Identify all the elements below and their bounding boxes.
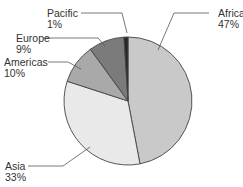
label-europe: Europe 9% — [16, 33, 50, 55]
leader-europe — [43, 38, 105, 46]
label-pct: 47% — [218, 19, 243, 30]
leader-asia — [28, 147, 90, 166]
label-pct: 33% — [5, 172, 26, 183]
label-pacific: Pacific 1% — [47, 8, 78, 30]
label-pct: 10% — [4, 68, 48, 79]
label-americas: Americas 10% — [4, 57, 48, 79]
leader-africa — [158, 13, 209, 50]
leader-pacific — [81, 13, 127, 33]
label-pct: 1% — [47, 19, 78, 30]
label-pct: 9% — [16, 44, 50, 55]
pie-chart — [0, 0, 243, 187]
slice-africa — [128, 37, 192, 164]
label-asia: Asia 33% — [5, 161, 26, 183]
label-africa: Africa 47% — [218, 8, 243, 30]
